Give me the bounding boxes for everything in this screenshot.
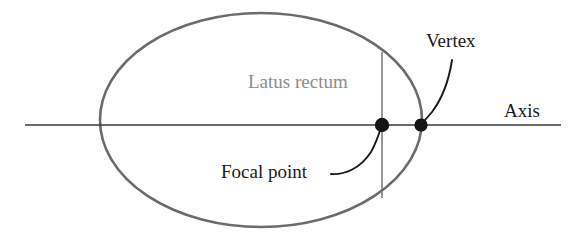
vertex-label: Vertex [426, 30, 476, 51]
diagram-background [0, 0, 574, 241]
vertex-point-marker-icon [414, 118, 427, 131]
focal-point-label: Focal point [221, 161, 308, 182]
axis-label: Axis [504, 100, 540, 121]
focal-point-marker-icon [375, 118, 389, 132]
conic-section-diagram: Latus rectum Vertex Focal point Axis [0, 0, 574, 241]
latus-rectum-label: Latus rectum [248, 71, 348, 92]
diagram-canvas: Latus rectum Vertex Focal point Axis [0, 0, 574, 241]
